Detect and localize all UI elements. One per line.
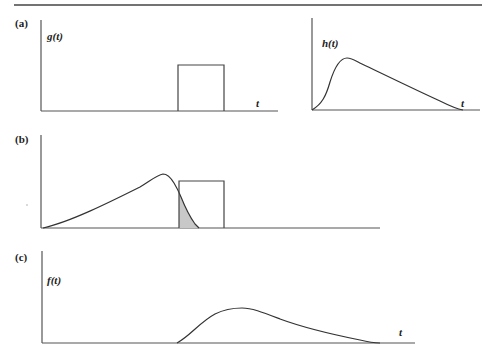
plot-g: g(t) t — [41, 20, 278, 111]
t-label-f: t — [399, 326, 403, 338]
reversed-h-curve — [43, 174, 199, 228]
f-label: f(t) — [47, 274, 61, 287]
panel-a: (a) g(t) t h(t) t — [15, 17, 480, 111]
t-label-h: t — [461, 97, 465, 109]
panel-label-a: (a) — [15, 17, 28, 30]
panel-label-b: (b) — [15, 133, 29, 146]
t-label-g: t — [256, 97, 260, 109]
h-label: h(t) — [322, 37, 339, 50]
g-label: g(t) — [46, 30, 63, 43]
panel-label-c: (c) — [15, 251, 28, 264]
panel-c: (c) f(t) t — [15, 251, 415, 343]
panel-b: (b) — [15, 133, 380, 228]
stray-dot — [26, 204, 27, 205]
f-curve — [177, 308, 380, 343]
plot-h: h(t) t — [312, 18, 480, 110]
h-curve — [312, 58, 463, 110]
convolution-figure: (a) g(t) t h(t) t (b) (c) — [0, 0, 495, 357]
rectangular-pulse-g — [178, 65, 224, 111]
